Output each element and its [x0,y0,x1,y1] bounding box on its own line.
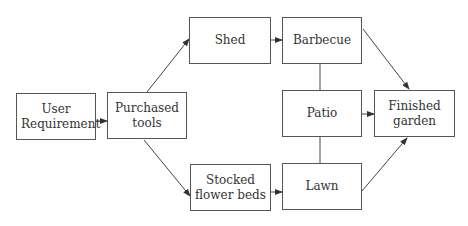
node-patio: Patio [282,90,362,137]
node-label: Lawn [305,179,338,194]
node-label: User Requirement [21,102,91,132]
edge-lawn-to-finished-garden [362,138,407,191]
node-label: Barbecue [293,33,351,48]
edge-barbecue-to-finished-garden [363,29,409,89]
node-user-requirement: User Requirement [16,93,96,140]
node-label: Finished garden [385,99,445,129]
edge-purchased-tools-to-stocked-flower-beds [144,140,190,196]
node-stocked-flower-beds: Stocked flower beds [190,164,271,211]
node-barbecue: Barbecue [282,17,362,64]
node-lawn: Lawn [282,163,362,210]
node-label: Stocked flower beds [192,173,270,203]
node-purchased-tools: Purchased tools [107,92,187,139]
node-shed: Shed [189,17,271,64]
node-label: Patio [307,106,338,121]
node-label: Purchased tools [112,101,182,131]
node-label: Shed [215,33,246,48]
edge-purchased-tools-to-shed [147,39,189,92]
node-finished-garden: Finished garden [374,90,455,137]
